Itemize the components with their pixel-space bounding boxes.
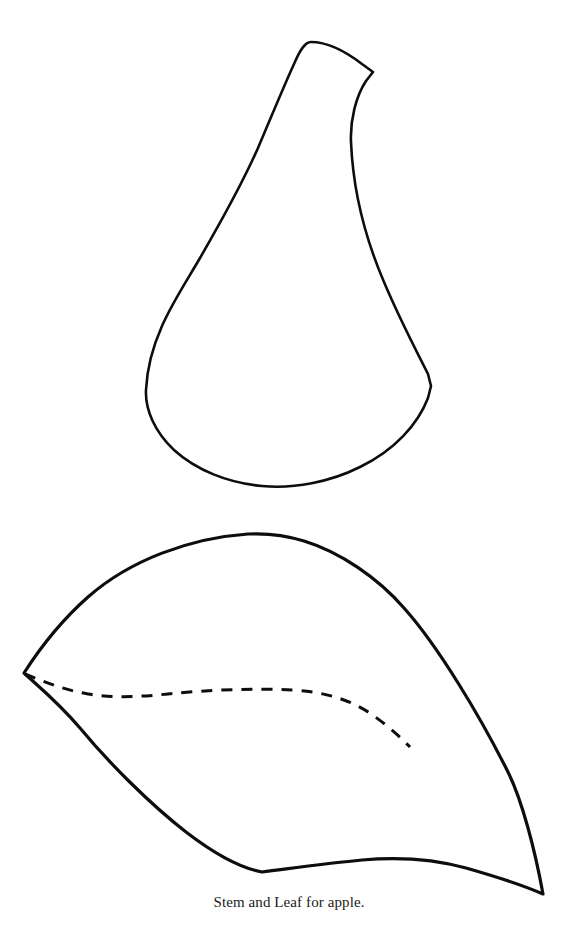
leaf-midrib-path bbox=[25, 674, 410, 747]
figure-page: Stem and Leaf for apple. bbox=[0, 0, 578, 942]
leaf-shape-path bbox=[24, 534, 543, 894]
stem-shape-path bbox=[146, 42, 431, 487]
figure-caption: Stem and Leaf for apple. bbox=[0, 893, 578, 912]
botanical-line-drawing bbox=[0, 0, 578, 942]
